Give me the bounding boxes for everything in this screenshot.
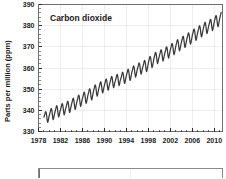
y-tick-label: 390 xyxy=(23,1,35,8)
x-tick-label: 1986 xyxy=(75,137,91,144)
secondary-panel-frame xyxy=(39,169,223,179)
y-tick-label: 360 xyxy=(23,65,35,72)
x-tick-label: 1998 xyxy=(141,137,157,144)
x-tick-label: 1994 xyxy=(119,137,135,144)
figure-container: 330340350360370380390 197819821986199019… xyxy=(0,0,226,178)
y-tick-label: 380 xyxy=(23,22,35,29)
y-tick-label: 370 xyxy=(23,43,35,50)
x-tick-label: 2002 xyxy=(163,137,179,144)
y-tick-label: 350 xyxy=(23,86,35,93)
x-tick-label: 1978 xyxy=(31,137,47,144)
plot-title: Carbon dioxide xyxy=(50,13,112,23)
y-tick-label: 330 xyxy=(23,128,35,135)
y-tick-label: 340 xyxy=(23,107,35,114)
x-tick-label: 1982 xyxy=(53,137,69,144)
carbon-dioxide-chart: 330340350360370380390 197819821986199019… xyxy=(0,0,226,178)
x-tick-label: 2006 xyxy=(185,137,201,144)
x-tick-label: 1990 xyxy=(97,137,113,144)
y-axis-title: Parts per million (ppm) xyxy=(3,40,12,122)
secondary-panel xyxy=(39,169,223,179)
x-tick-label: 2010 xyxy=(206,137,222,144)
